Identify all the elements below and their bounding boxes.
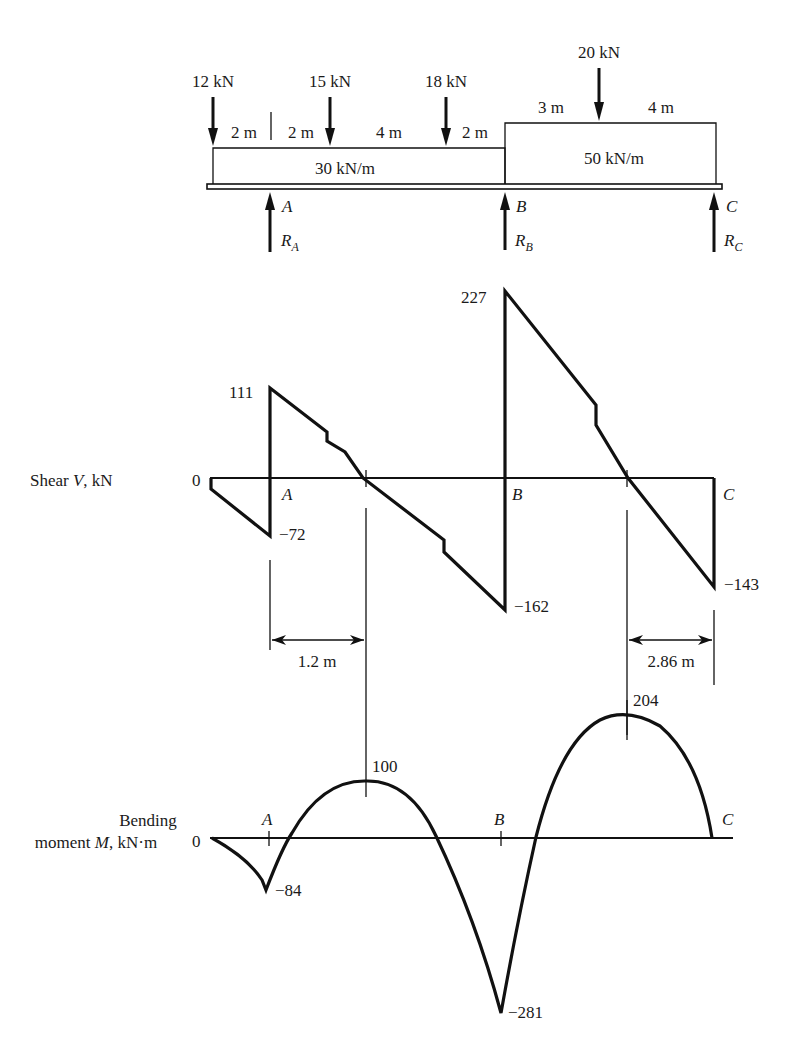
moment-point-B: B [494, 810, 505, 829]
shear-value-neg143: −143 [724, 575, 759, 594]
load-label: 12 kN [192, 72, 234, 91]
spacing-label: 2 m [231, 123, 257, 142]
moment-value-204: 204 [633, 691, 659, 710]
shear-axis-label: Shear V, kN [30, 471, 113, 490]
shear-value-neg72: −72 [279, 525, 306, 544]
spacing-label: 3 m [538, 98, 564, 117]
reaction-RB: B RB [500, 192, 533, 254]
shear-zero-label: 0 [192, 471, 201, 490]
dimension-label: 1.2 m [298, 652, 337, 671]
shear-point-A: A [281, 485, 293, 504]
moment-point-C: C [722, 810, 734, 829]
reaction-RA: A RA [265, 192, 299, 254]
moment-value-neg281: −281 [508, 1003, 543, 1022]
shear-curve [211, 291, 714, 610]
shear-point-C: C [723, 485, 735, 504]
moment-curve [212, 715, 712, 1013]
shear-value-227: 227 [461, 288, 487, 307]
distributed-load-label: 30 kN/m [315, 159, 375, 178]
dimension-1-2m: 1.2 m [270, 508, 366, 760]
moment-zero-label: 0 [192, 832, 201, 851]
moment-value-100: 100 [372, 757, 398, 776]
shear-diagram: Shear V, kN 0 A B C 111 −72 227 −162 −14… [30, 288, 759, 760]
shear-value-neg162: −162 [514, 597, 549, 616]
spacing-label: 4 m [376, 123, 402, 142]
load-label: 18 kN [425, 72, 467, 91]
reaction-label: RC [723, 231, 743, 254]
reaction-RC: C RC [709, 192, 743, 254]
shear-point-B: B [512, 485, 523, 504]
distributed-load-label: 50 kN/m [584, 149, 644, 168]
moment-axis-label-line1: Bending [119, 811, 177, 830]
support-label: C [726, 197, 738, 216]
load-label: 20 kN [578, 43, 620, 62]
point-load-12kN: 12 kN [192, 72, 234, 146]
support-label: A [281, 197, 293, 216]
beam [207, 184, 722, 189]
point-load-20kN: 20 kN [578, 43, 620, 121]
shear-value-111: 111 [229, 383, 253, 402]
spacing-label: 2 m [462, 123, 488, 142]
load-label: 15 kN [309, 72, 351, 91]
spacing-label: 2 m [288, 123, 314, 142]
dimension-label: 2.86 m [647, 652, 694, 671]
support-label: B [516, 197, 527, 216]
moment-value-neg84: −84 [275, 881, 302, 900]
spacing-label: 4 m [648, 98, 674, 117]
point-load-18kN: 18 kN [425, 72, 467, 146]
moment-point-A: A [261, 810, 273, 829]
moment-diagram: Bending moment M, kN·m 0 A B C −84 100 −… [35, 691, 734, 1022]
loading-diagram: 12 kN 15 kN 18 kN 20 kN 2 m 2 m 4 m 2 m … [192, 43, 743, 254]
moment-axis-label-line2: moment M, kN·m [35, 833, 157, 852]
reaction-label: RA [280, 231, 299, 254]
point-load-15kN: 15 kN [309, 72, 351, 146]
reaction-label: RB [514, 231, 533, 254]
beam-diagram-figure: 12 kN 15 kN 18 kN 20 kN 2 m 2 m 4 m 2 m … [0, 0, 804, 1051]
